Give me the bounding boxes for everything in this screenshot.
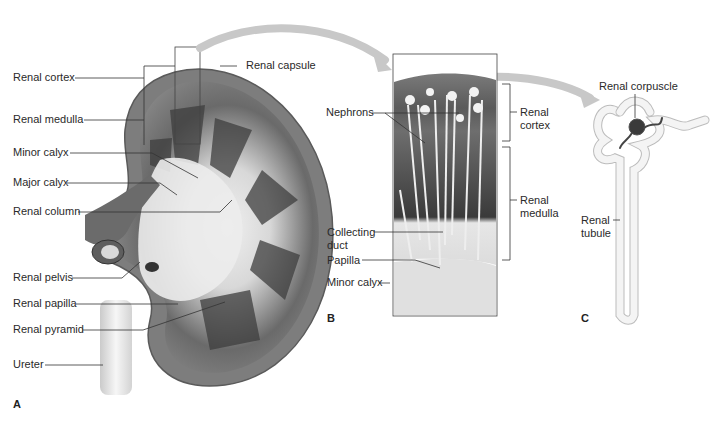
label-renal-tubule-line1: Renal [581, 214, 610, 227]
label-renal-cortex-b-line2: cortex [520, 119, 550, 132]
label-renal-medulla-b-line2: medulla [520, 207, 559, 220]
label-renal-tubule-line2: tubule [581, 227, 611, 240]
nephron-section [393, 54, 497, 316]
panel-letter-b: B [327, 312, 335, 324]
kidney-illustration [0, 0, 714, 422]
panel-letter-a: A [13, 398, 21, 410]
label-renal-pyramid: Renal pyramid [13, 323, 84, 336]
arrow-a-to-b [200, 28, 385, 60]
label-minor-calyx: Minor calyx [13, 146, 69, 159]
label-collecting-duct-line2: duct [327, 239, 348, 252]
label-renal-column: Renal column [13, 205, 80, 218]
ureter-tube [100, 300, 132, 395]
label-renal-medulla: Renal medulla [13, 113, 83, 126]
label-renal-papilla: Renal papilla [13, 297, 77, 310]
renal-tubule-drawing [598, 101, 705, 320]
label-major-calyx: Major calyx [13, 176, 69, 189]
label-renal-cortex: Renal cortex [13, 71, 75, 84]
label-renal-corpuscle: Renal corpuscle [599, 80, 678, 93]
label-minor-calyx-b: Minor calyx [327, 276, 383, 289]
label-renal-cortex-b-line1: Renal [520, 106, 549, 119]
label-renal-pelvis: Renal pelvis [13, 271, 73, 284]
label-nephrons: Nephrons [326, 106, 374, 119]
label-collecting-duct-line1: Collecting [327, 226, 375, 239]
kidney-cross-section [85, 47, 333, 395]
label-ureter: Ureter [13, 358, 44, 371]
label-renal-medulla-b-line1: Renal [520, 194, 549, 207]
label-papilla: Papilla [327, 254, 360, 267]
label-renal-capsule: Renal capsule [246, 59, 316, 72]
panel-letter-c: C [581, 312, 589, 324]
